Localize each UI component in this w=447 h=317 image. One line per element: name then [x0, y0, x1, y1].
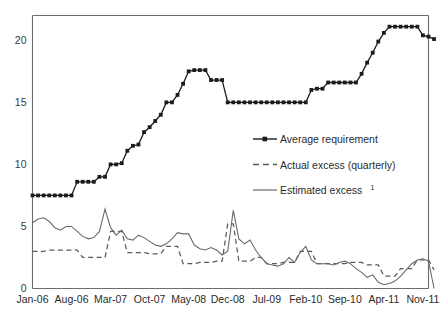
data-point-marker: [47, 194, 51, 198]
data-point-marker: [215, 78, 219, 82]
y-tick-label: 5: [21, 220, 27, 232]
data-point-marker: [265, 100, 269, 104]
data-point-marker: [170, 100, 174, 104]
y-tick-label: 15: [15, 96, 27, 108]
x-axis-tick-labels: Jan-06Aug-06Mar-07Oct-07May-08Dec-08Jul-…: [16, 293, 439, 305]
y-tick-label: 10: [15, 158, 27, 170]
data-series-group: [31, 25, 436, 289]
data-point-marker: [427, 35, 431, 39]
data-point-marker: [276, 100, 280, 104]
x-tick-label: Apr-11: [369, 293, 400, 305]
data-point-marker: [298, 100, 302, 104]
x-tick-label: Feb-10: [289, 293, 322, 305]
x-tick-label: Dec-08: [211, 293, 245, 305]
data-point-marker: [120, 161, 124, 165]
data-point-marker: [58, 194, 62, 198]
data-point-marker: [282, 100, 286, 104]
series-markers-average-requirement: [31, 25, 436, 198]
x-tick-label: Mar-07: [94, 293, 127, 305]
data-point-marker: [42, 194, 46, 198]
data-point-marker: [399, 25, 403, 29]
legend-item: Actual excess (quarterly): [253, 159, 396, 171]
data-point-marker: [98, 175, 102, 179]
data-point-marker: [382, 31, 386, 35]
data-point-marker: [393, 25, 397, 29]
legend-item: Estimated excess1: [253, 184, 375, 196]
legend-item-label: Actual excess (quarterly): [280, 159, 396, 171]
data-point-marker: [309, 88, 313, 92]
data-point-marker: [321, 87, 325, 91]
x-tick-label: Sep-10: [328, 293, 362, 305]
data-point-marker: [209, 78, 213, 82]
data-point-marker: [187, 69, 191, 73]
data-point-marker: [254, 100, 258, 104]
legend-footnote-marker: 1: [371, 184, 375, 191]
data-point-marker: [36, 194, 40, 198]
data-point-marker: [371, 51, 375, 55]
data-point-marker: [31, 194, 35, 198]
data-point-marker: [103, 175, 107, 179]
x-tick-label: May-08: [171, 293, 206, 305]
data-point-marker: [70, 194, 74, 198]
data-point-marker: [204, 68, 208, 72]
legend-item: Average requirement: [253, 133, 378, 145]
data-point-marker: [237, 100, 241, 104]
data-point-marker: [315, 87, 319, 91]
data-point-marker: [231, 100, 235, 104]
data-point-marker: [415, 25, 419, 29]
data-point-marker: [142, 130, 146, 134]
data-point-marker: [53, 194, 57, 198]
data-point-marker: [64, 194, 68, 198]
legend-item-label: Average requirement: [280, 133, 378, 145]
data-point-marker: [421, 33, 425, 37]
data-point-marker: [176, 93, 180, 97]
x-tick-label: Jan-06: [16, 293, 48, 305]
data-point-marker: [220, 78, 224, 82]
data-point-marker: [365, 61, 369, 65]
data-point-marker: [337, 81, 341, 85]
data-point-marker: [360, 72, 364, 76]
data-point-marker: [293, 100, 297, 104]
legend-item-label: Estimated excess: [280, 184, 362, 196]
x-tick-label: Nov-11: [406, 293, 439, 305]
series-estimated-excess: [33, 209, 435, 288]
line-chart: 05101520 Jan-06Aug-06Mar-07Oct-07May-08D…: [0, 0, 447, 317]
data-point-marker: [410, 25, 414, 29]
x-tick-label: Oct-07: [134, 293, 166, 305]
data-point-marker: [86, 180, 90, 184]
data-point-marker: [404, 25, 408, 29]
data-point-marker: [388, 25, 392, 29]
data-point-marker: [148, 125, 152, 129]
x-tick-label: Jul-09: [252, 293, 281, 305]
plot-axes: [33, 16, 429, 289]
data-point-marker: [81, 180, 85, 184]
data-point-marker: [125, 149, 129, 153]
data-point-marker: [75, 180, 79, 184]
series-actual-excess: [33, 224, 435, 276]
chart-legend: Average requirementActual excess (quarte…: [253, 133, 396, 196]
data-point-marker: [304, 100, 308, 104]
data-point-marker: [92, 180, 96, 184]
data-point-marker: [137, 143, 141, 147]
data-point-marker: [109, 163, 113, 167]
data-point-marker: [181, 82, 185, 86]
legend-square-marker-icon: [263, 137, 268, 142]
data-point-marker: [243, 100, 247, 104]
data-point-marker: [354, 81, 358, 85]
x-tick-label: Aug-06: [55, 293, 89, 305]
data-point-marker: [153, 119, 157, 123]
data-point-marker: [270, 100, 274, 104]
y-tick-label: 20: [15, 34, 27, 46]
data-point-marker: [287, 100, 291, 104]
data-point-marker: [159, 113, 163, 117]
data-point-marker: [226, 100, 230, 104]
chart-container: 05101520 Jan-06Aug-06Mar-07Oct-07May-08D…: [0, 0, 447, 317]
y-axis-tick-labels: 05101520: [15, 34, 27, 294]
data-point-marker: [114, 163, 118, 167]
data-point-marker: [192, 68, 196, 72]
data-point-marker: [332, 81, 336, 85]
data-point-marker: [343, 81, 347, 85]
data-point-marker: [131, 144, 135, 148]
data-point-marker: [198, 68, 202, 72]
data-point-marker: [164, 100, 168, 104]
